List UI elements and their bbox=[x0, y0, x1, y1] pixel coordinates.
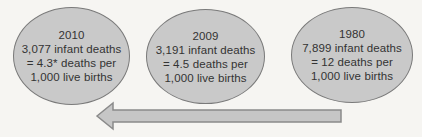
bubble-2009: 2009 3,191 infant deaths = 4.5 deaths pe… bbox=[146, 9, 265, 104]
bubble-rate-denominator: 1,000 live births bbox=[311, 69, 393, 83]
bubble-year: 2010 bbox=[59, 28, 85, 42]
bubble-rate: = 4.5 deaths per bbox=[163, 57, 248, 71]
bubble-deaths: 3,077 infant deaths bbox=[22, 42, 122, 56]
infant-mortality-diagram: 2010 3,077 infant deaths = 4.3* deaths p… bbox=[0, 0, 422, 137]
bubble-rate-denominator: 1,000 live births bbox=[164, 71, 246, 85]
bubble-2010: 2010 3,077 infant deaths = 4.3* deaths p… bbox=[13, 7, 130, 105]
bubble-deaths: 3,191 infant deaths bbox=[156, 43, 256, 57]
bubble-year: 2009 bbox=[193, 29, 219, 43]
left-arrow-shape bbox=[97, 103, 341, 129]
bubble-rate: = 4.3* deaths per bbox=[27, 56, 117, 70]
bubble-year: 1980 bbox=[339, 27, 365, 41]
bubble-deaths: 7,899 infant deaths bbox=[302, 41, 402, 55]
left-arrow-icon bbox=[88, 99, 344, 133]
bubble-1980: 1980 7,899 infant deaths = 12 deaths per… bbox=[291, 7, 413, 103]
bubble-rate: = 12 deaths per bbox=[311, 55, 393, 69]
bubble-rate-denominator: 1,000 live births bbox=[30, 70, 112, 84]
